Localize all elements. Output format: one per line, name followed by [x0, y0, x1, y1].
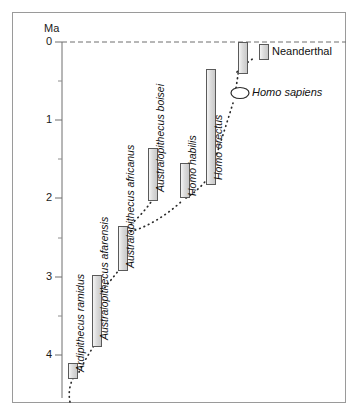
y-tick-label-4: 4: [36, 348, 52, 360]
taxon-label-homo-erectus: Homo erectus: [212, 115, 224, 180]
taxon-label-ardipithecus-ramidus: Ardipithecus ramidus: [74, 274, 86, 372]
timeline-plot: [0, 0, 359, 416]
homo-sapiens-ellipse-marker: [231, 88, 249, 99]
y-axis-major-ticks: [55, 42, 62, 355]
taxon-label-australopithecus-boisei: Australopithecus boisei: [154, 84, 166, 192]
y-tick-label-1: 1: [36, 113, 52, 125]
taxon-label-australopithecus-africanus: Australopithecus africanus: [124, 145, 136, 268]
y-tick-label-0: 0: [36, 35, 52, 47]
taxon-label-australopithecus-afarensis: Australopithecus afarensis: [98, 217, 110, 340]
range-bar-neanderthal-lineage: [238, 42, 248, 74]
y-tick-label-2: 2: [36, 191, 52, 203]
taxon-label-neanderthal: Neanderthal: [272, 45, 332, 57]
figure-root: Ma 0 1 2 3 4 Ardipithecus ramidus Austra…: [0, 0, 359, 416]
range-bar-neanderthal: [259, 44, 269, 60]
taxon-label-homo-sapiens: Homo sapiens: [252, 86, 322, 98]
y-tick-label-3: 3: [36, 270, 52, 282]
taxon-label-homo-habilis: Homo habilis: [186, 135, 198, 196]
axis-unit-label: Ma: [44, 22, 59, 34]
lineage-root-to-ramidus: [69, 376, 74, 402]
